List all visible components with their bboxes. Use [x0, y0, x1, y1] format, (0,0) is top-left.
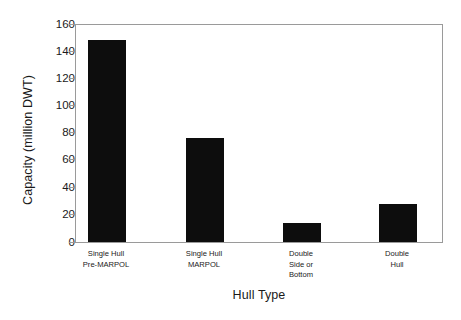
x-category-line: Single Hull: [156, 249, 252, 260]
bar-double-side-or-bottom: [283, 223, 321, 242]
y-tick-label-40: 40: [28, 180, 75, 194]
x-category-label-single-hull-pre-marpol: Single Hull Pre-MARPOL: [58, 249, 154, 270]
y-tick-label-120: 120: [28, 71, 75, 85]
x-category-line: Single Hull: [58, 249, 154, 260]
x-category-label-double-hull: Double Hull: [349, 249, 445, 270]
y-tick-label-80: 80: [28, 125, 75, 139]
y-tick-label-0: 0: [28, 235, 75, 249]
x-category-line: Double: [349, 249, 445, 260]
y-tick-label-20: 20: [28, 207, 75, 221]
x-category-label-double-side-or-bottom: Double Side or Bottom: [253, 249, 349, 281]
bar-single-hull-pre-marpol: [88, 40, 126, 242]
x-category-label-single-hull-marpol: Single Hull MARPOL: [156, 249, 252, 270]
x-category-line: Bottom: [253, 270, 349, 281]
y-tick-label-140: 140: [28, 44, 75, 58]
x-axis-title: Hull Type: [75, 288, 443, 302]
x-category-line: Side or: [253, 260, 349, 271]
bar-double-hull: [379, 204, 417, 242]
x-category-line: Double: [253, 249, 349, 260]
bar-chart-figure: Capacity (million DWT) 160 140 120 100 8…: [0, 0, 461, 320]
plot-area: [75, 24, 443, 243]
x-category-line: MARPOL: [156, 260, 252, 271]
y-tick-label-160: 160: [28, 17, 75, 31]
x-category-line: Pre-MARPOL: [58, 260, 154, 271]
x-category-line: Hull: [349, 260, 445, 271]
y-tick-label-100: 100: [28, 98, 75, 112]
bar-single-hull-marpol: [186, 138, 224, 242]
y-tick-label-60: 60: [28, 152, 75, 166]
